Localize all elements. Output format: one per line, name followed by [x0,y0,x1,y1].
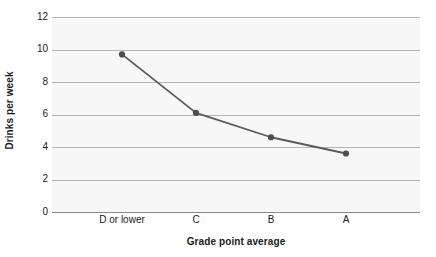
data-series-layer [52,17,420,212]
data-point [119,51,125,57]
y-tick-label: 12 [4,12,48,22]
x-axis-tick-labels: D or lower C B A [52,215,420,231]
y-axis-tick-labels: 12 10 8 6 4 2 0 [0,0,48,257]
data-point [343,150,349,156]
series-line [122,54,346,153]
x-axis-title: Grade point average [52,236,420,247]
series-markers [119,51,349,156]
y-tick-label: 2 [4,174,48,184]
data-point [268,134,274,140]
x-tick-label-d-or-lower: D or lower [99,215,145,225]
x-tick-label-c: C [192,215,199,225]
x-tick-label-a: A [343,215,350,225]
data-point [193,110,199,116]
y-tick-label: 6 [4,109,48,119]
y-tick-label: 0 [4,207,48,217]
line-chart-figure: Drinks per week 12 10 8 6 4 2 0 D or low… [0,0,436,257]
plot-area [52,17,420,213]
y-tick-label: 4 [4,142,48,152]
y-tick-label: 8 [4,77,48,87]
y-tick-label: 10 [4,44,48,54]
x-tick-label-b: B [268,215,275,225]
